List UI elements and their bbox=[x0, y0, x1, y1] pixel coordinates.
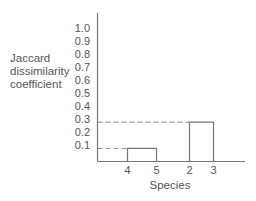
cluster-box bbox=[128, 148, 157, 161]
y-tick-label: 0.3 bbox=[75, 113, 90, 125]
y-axis-label-line: coefficient bbox=[10, 78, 62, 90]
y-axis-label: Jaccarddissimilaritycoefficient bbox=[10, 52, 70, 90]
y-tick-label: 0.4 bbox=[75, 100, 90, 112]
x-tick-label: 3 bbox=[210, 164, 216, 176]
dendrogram-chart: Jaccarddissimilaritycoefficient 1.00.90.… bbox=[0, 0, 256, 201]
y-tick-label: 0.1 bbox=[75, 139, 90, 151]
reference-lines bbox=[98, 122, 190, 148]
x-tick-label: 5 bbox=[153, 164, 159, 176]
y-tick-label: 0.8 bbox=[75, 48, 90, 60]
cluster-box bbox=[190, 122, 214, 161]
y-axis-label-line: Jaccard bbox=[10, 52, 50, 64]
y-tick-label: 1.0 bbox=[75, 22, 90, 34]
x-axis-label: Species bbox=[150, 179, 191, 191]
y-tick-label: 0.7 bbox=[75, 61, 90, 73]
x-tick-label: 2 bbox=[186, 164, 192, 176]
y-axis-label-line: dissimilarity bbox=[10, 65, 70, 77]
y-tick-label: 0.6 bbox=[75, 74, 90, 86]
x-tick-labels: 4523 bbox=[124, 164, 216, 176]
y-tick-label: 0.2 bbox=[75, 126, 90, 138]
x-tick-label: 4 bbox=[124, 164, 130, 176]
y-tick-labels: 1.00.90.80.70.60.50.40.30.20.1 bbox=[75, 22, 90, 152]
y-tick-label: 0.5 bbox=[75, 87, 90, 99]
cluster-boxes bbox=[128, 122, 214, 161]
y-tick-label: 0.9 bbox=[75, 35, 90, 47]
